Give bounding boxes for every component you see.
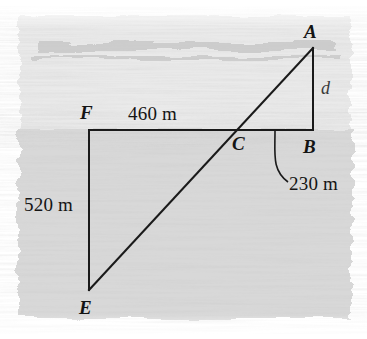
vertex-label-e: E bbox=[79, 298, 92, 317]
figure-container: A B C E F d 460 m 230 m 520 m bbox=[0, 0, 367, 339]
vertex-label-c: C bbox=[232, 134, 245, 153]
background-wash bbox=[0, 0, 367, 339]
diagram-canvas bbox=[0, 0, 367, 339]
dimension-label-460m: 460 m bbox=[128, 104, 177, 123]
vertex-label-b: B bbox=[303, 137, 316, 156]
unknown-distance-label-d: d bbox=[321, 79, 330, 97]
vertex-label-a: A bbox=[304, 22, 317, 41]
dimension-label-230m: 230 m bbox=[289, 174, 338, 193]
dimension-label-520m: 520 m bbox=[24, 195, 73, 214]
vertex-label-f: F bbox=[80, 103, 93, 122]
